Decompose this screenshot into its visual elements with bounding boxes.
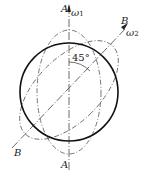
axis-b-bottom-label: B bbox=[14, 148, 21, 158]
axis-a-bottom-label: A bbox=[61, 160, 68, 170]
axis-b-top-label: B bbox=[121, 16, 128, 26]
angle-label: 45° bbox=[72, 53, 90, 63]
omega1-label: ω1 bbox=[71, 8, 84, 18]
axis-a-top-label: A bbox=[61, 4, 68, 14]
omega2-label: ω2 bbox=[126, 28, 139, 38]
rotation-diagram: A ω1 B ω2 45° B A bbox=[0, 0, 150, 178]
